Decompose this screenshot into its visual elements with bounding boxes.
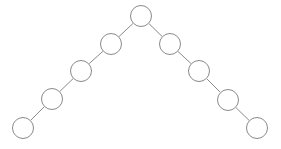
edge-right-2-right-3 — [207, 79, 220, 92]
edge-left-1-left-2 — [89, 51, 103, 63]
edge-root-right-1 — [149, 24, 162, 37]
left-node-3-circle[interactable] — [42, 89, 63, 110]
diagram-canvas — [0, 0, 281, 149]
left-leaf-node[interactable] — [13, 118, 34, 139]
right-node-2[interactable] — [189, 61, 210, 82]
left-node-2[interactable] — [71, 61, 92, 82]
edge-right-3-right-leaf — [236, 108, 249, 121]
left-node-3[interactable] — [42, 89, 63, 110]
edge-left-2-left-3 — [60, 79, 73, 92]
right-leaf-node[interactable] — [247, 118, 268, 139]
right-leaf-node-circle[interactable] — [247, 118, 268, 139]
root-node-circle[interactable] — [131, 6, 152, 27]
right-node-2-circle[interactable] — [189, 61, 210, 82]
edge-right-1-right-2 — [178, 52, 191, 64]
left-leaf-node-circle[interactable] — [13, 118, 34, 139]
right-node-3-circle[interactable] — [218, 90, 239, 111]
left-node-1[interactable] — [101, 34, 122, 55]
left-node-2-circle[interactable] — [71, 61, 92, 82]
edge-root-left-1 — [119, 24, 133, 37]
graph-svg — [0, 0, 281, 149]
node-layer — [13, 6, 268, 139]
edge-left-3-left-leaf — [31, 107, 44, 120]
right-node-1-circle[interactable] — [160, 34, 181, 55]
left-node-1-circle[interactable] — [101, 34, 122, 55]
edge-layer — [31, 24, 249, 121]
right-node-1[interactable] — [160, 34, 181, 55]
right-node-3[interactable] — [218, 90, 239, 111]
root-node[interactable] — [131, 6, 152, 27]
